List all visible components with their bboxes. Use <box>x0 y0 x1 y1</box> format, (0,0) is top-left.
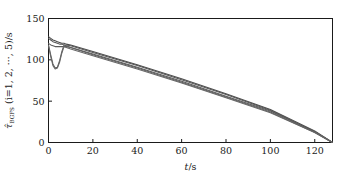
x-tick-label: 0 <box>45 145 51 156</box>
x-tick-label: 120 <box>306 145 324 156</box>
x-tick-label: 100 <box>261 145 279 156</box>
y-tick-label: 150 <box>26 13 44 24</box>
plot-frame <box>49 19 333 143</box>
series-group <box>49 37 333 143</box>
series-line <box>49 37 333 143</box>
x-axis-title: t/s <box>185 161 197 172</box>
x-tick-label: 80 <box>220 145 232 156</box>
x-tick-label: 20 <box>87 145 99 156</box>
y-tick-label: 0 <box>38 137 44 148</box>
series-line <box>49 46 333 143</box>
y-tick-label: 50 <box>32 96 44 107</box>
x-tick-label: 60 <box>176 145 188 156</box>
line-chart: 020406080100120050100150t/sτ̂BGFS (i=1, … <box>0 0 346 180</box>
y-tick-label: 100 <box>26 54 44 65</box>
y-axis-title: τ̂BGFS (i=1, 2, ···, 5)/s <box>3 32 15 129</box>
series-line <box>49 43 333 142</box>
x-tick-label: 40 <box>131 145 143 156</box>
series-line <box>49 45 333 143</box>
figure-container: 020406080100120050100150t/sτ̂BGFS (i=1, … <box>0 0 346 180</box>
